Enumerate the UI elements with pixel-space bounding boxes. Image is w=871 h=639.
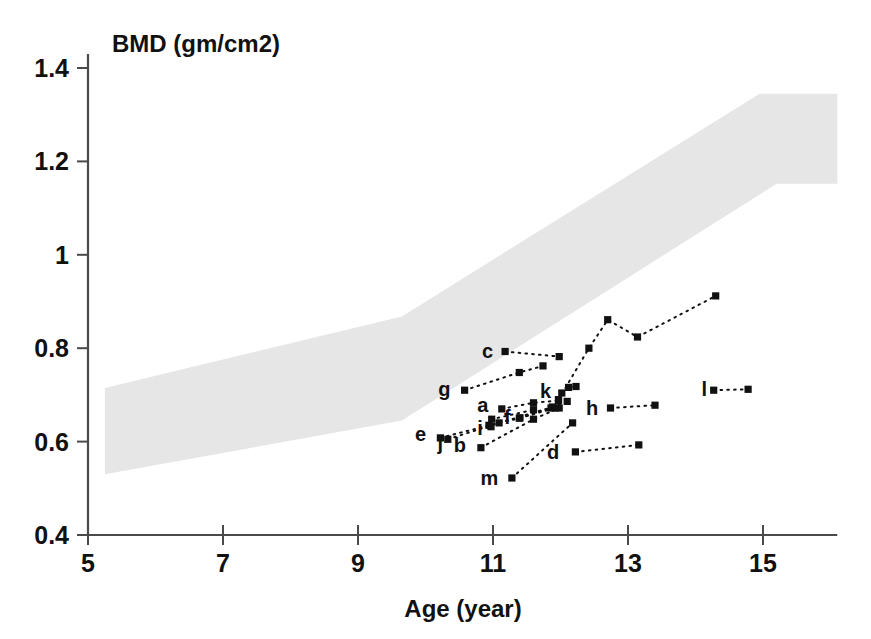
series-label-d: d [547,441,559,463]
data-point-marker [530,399,537,406]
x-tick-label: 7 [216,549,230,577]
y-tick-label: 1 [55,241,69,269]
data-point-marker [651,402,658,409]
series-label-g: g [438,378,450,400]
data-point-marker [585,345,592,352]
series-label-a: a [477,394,489,416]
series-label-l: l [701,378,707,400]
series-label-j: j [437,432,444,454]
data-point-marker [516,414,523,421]
series-connector [611,405,656,408]
data-point-marker [530,416,537,423]
series-label-c: c [482,340,493,362]
data-point-marker [710,387,717,394]
data-point-marker [745,386,752,393]
series-label-h: h [586,397,598,419]
series-l [710,386,752,394]
x-tick-label: 9 [351,549,365,577]
chart-canvas: 0.40.60.811.21.4 579111315 BMD (gm/cm2) … [0,0,871,639]
reference-band-group [105,94,837,475]
series-label-k: k [540,380,552,402]
x-tick-label: 13 [614,549,642,577]
series-label-b: b [454,434,466,456]
series-label-f: f [504,406,511,428]
series-connector [505,352,559,357]
data-point-marker [604,316,611,323]
data-point-marker [539,362,546,369]
normal-reference-range-band [105,94,837,475]
series-label-e: e [415,423,426,445]
data-point-marker [508,474,515,481]
data-point-marker [635,441,642,448]
y-tick-label: 0.6 [34,428,69,456]
data-point-marker [502,348,509,355]
data-point-marker [572,383,579,390]
data-point-marker [516,369,523,376]
y-tick-label: 1.2 [34,147,69,175]
data-point-marker [488,416,495,423]
series-label-i: i [477,417,483,439]
bmd-vs-age-scatter-chart: 0.40.60.811.21.4 579111315 BMD (gm/cm2) … [0,0,871,639]
data-point-marker [607,404,614,411]
series-connector [559,296,716,400]
y-tick-label: 0.8 [34,334,69,362]
data-point-marker [564,398,571,405]
data-point-marker [496,419,503,426]
series-connector [512,423,573,478]
data-point-marker [556,353,563,360]
data-point-marker [634,333,641,340]
x-tick-label: 15 [749,549,777,577]
series-connector [714,389,748,390]
series-d [572,441,643,455]
x-tick-label: 11 [480,549,507,577]
y-tick-label: 0.4 [34,521,69,549]
x-axis-title: Age (year) [404,595,521,622]
y-axis-ticks: 0.40.60.811.21.4 [34,54,88,549]
data-point-marker [549,403,556,410]
y-tick-label: 1.4 [34,54,69,82]
series-label-m: m [481,467,499,489]
data-point-marker [444,436,451,443]
series-m [508,419,576,481]
data-point-marker [569,419,576,426]
data-point-marker [555,396,562,403]
x-axis-ticks: 579111315 [81,525,777,577]
x-tick-label: 5 [81,549,95,577]
data-point-marker [712,292,719,299]
data-point-marker [572,448,579,455]
series-h [607,402,659,412]
data-point-marker [461,387,468,394]
data-point-marker [477,444,484,451]
series-connector [575,445,638,452]
y-axis-title: BMD (gm/cm2) [112,30,280,57]
